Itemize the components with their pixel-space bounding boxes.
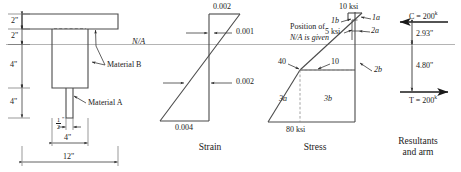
stress-mid-value: 5 ksi — [325, 28, 340, 36]
material-a-label: Material A — [88, 99, 122, 107]
dim-mid-web: 4" — [10, 61, 17, 69]
compression-resultant-unit: k — [435, 10, 438, 16]
stress-label-3a: 3a — [279, 95, 287, 103]
material-b-text: Material B — [107, 60, 141, 69]
stress-label-1b: 1b — [331, 17, 339, 25]
strain-diagram — [160, 14, 240, 121]
tension-resultant-label: T = 200k — [409, 95, 437, 105]
dim-lower-stem: 4" — [10, 98, 17, 106]
stress-label-3b: 3b — [324, 95, 332, 103]
stress-top-value: 10 ksi — [339, 3, 358, 11]
dim-upper-web: 2" — [11, 32, 18, 40]
dim-web-width: 4" — [64, 134, 71, 142]
tension-resultant-unit: k — [434, 94, 437, 100]
strain-dimension-arrows — [163, 33, 232, 83]
dim-stem-width-denominator: 2 — [56, 124, 61, 130]
dim-stem-width-unit: " — [62, 116, 64, 122]
material-leaders — [74, 30, 105, 103]
stress-label-1a: 1a — [372, 14, 380, 22]
material-a-text: Material A — [88, 98, 122, 107]
arm-lower-label: 4.80" — [416, 62, 433, 70]
compression-resultant-label: C = 200k — [409, 11, 438, 21]
material-b-label: Material B — [107, 61, 141, 69]
neutral-axis-label: N/A — [132, 37, 145, 46]
compression-resultant-text: C = 200 — [409, 12, 435, 21]
strain-top-value: 0.002 — [213, 3, 231, 11]
strain-bottom-value: 0.004 — [175, 124, 193, 132]
stress-note-line1: Position of — [290, 23, 325, 31]
figure-root: 2" 2" 4" 4" 1 2 " 4" 12" N/A Material B … — [0, 0, 461, 172]
strain-lower-inner-value: 0.002 — [236, 78, 254, 86]
stress-upper-left-value: 40 — [278, 58, 286, 66]
caption-resultants: Resultants and arm — [378, 136, 458, 158]
stress-upper-right-value: 10 — [331, 58, 339, 66]
stress-note-line2: N/A is given — [290, 34, 329, 42]
caption-resultants-line2: and arm — [403, 147, 434, 157]
dim-stem-width: 1 2 — [56, 117, 61, 130]
caption-strain: Strain — [170, 142, 250, 153]
strain-upper-inner-value: 0.001 — [236, 28, 254, 36]
tension-resultant-text: T = 200 — [409, 96, 434, 105]
stress-label-2b: 2b — [374, 66, 382, 74]
dim-total-width: 12" — [63, 153, 74, 161]
caption-stress: Stress — [275, 142, 355, 153]
stress-bottom-value: 80 ksi — [286, 126, 305, 134]
stress-label-2a: 2a — [371, 27, 379, 35]
caption-resultants-line1: Resultants — [398, 136, 438, 146]
arm-upper-label: 2.93" — [416, 30, 433, 38]
dim-flange-depth: 2" — [11, 17, 18, 25]
